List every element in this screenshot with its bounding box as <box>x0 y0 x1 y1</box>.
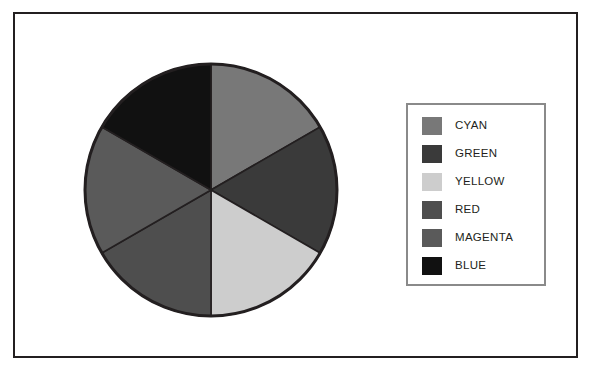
legend-label: YELLOW <box>455 176 505 188</box>
legend-swatch <box>422 201 442 219</box>
legend-item: GREEN <box>422 140 548 168</box>
legend-swatch <box>422 145 442 163</box>
pie-chart <box>81 60 341 320</box>
legend-item: CYAN <box>422 112 548 140</box>
legend-swatch <box>422 257 442 275</box>
legend-item: RED <box>422 196 548 224</box>
legend-item: BLUE <box>422 252 548 280</box>
legend-list: CYANGREENYELLOWREDMAGENTABLUE <box>422 112 548 280</box>
figure-root: CYANGREENYELLOWREDMAGENTABLUE <box>0 0 592 378</box>
legend-label: RED <box>455 204 480 216</box>
legend-swatch <box>422 117 442 135</box>
legend-item: YELLOW <box>422 168 548 196</box>
legend-box: CYANGREENYELLOWREDMAGENTABLUE <box>406 103 546 286</box>
figure-frame: CYANGREENYELLOWREDMAGENTABLUE <box>13 12 578 358</box>
legend-swatch <box>422 229 442 247</box>
legend-label: BLUE <box>455 260 486 272</box>
legend-label: CYAN <box>455 120 487 132</box>
legend-swatch <box>422 173 442 191</box>
pie-chart-svg <box>81 60 341 320</box>
legend-item: MAGENTA <box>422 224 548 252</box>
legend-label: MAGENTA <box>455 232 513 244</box>
legend-label: GREEN <box>455 148 497 160</box>
